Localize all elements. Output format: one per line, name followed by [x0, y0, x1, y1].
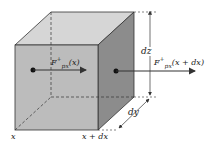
dy-label: dy: [128, 108, 139, 117]
control-volume-diagram: F+px(x) F+px(x + dx) dz dy x x + dx: [0, 0, 209, 149]
flux-in-label: F+px(x): [51, 59, 80, 67]
x-plus-dx-label: x + dx: [82, 133, 108, 141]
dz-label: dz: [141, 47, 152, 56]
flux-out-label: F+px(x + dx): [154, 59, 204, 67]
x-label: x: [11, 133, 16, 141]
cube-drawing: [0, 0, 209, 149]
